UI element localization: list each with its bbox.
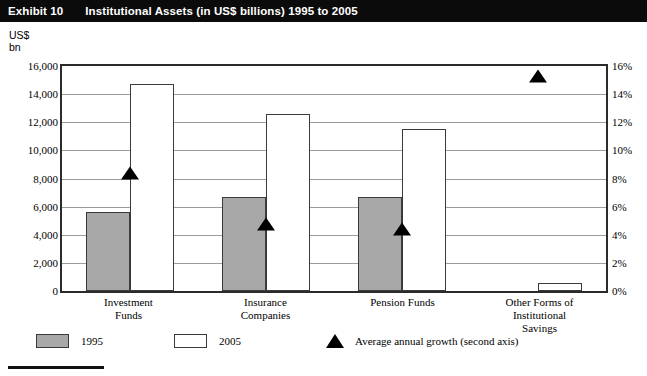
bar-group xyxy=(62,66,198,291)
right-axis-tick-label: 10% xyxy=(612,144,646,156)
white-square-swatch-icon xyxy=(174,334,207,348)
left-axis-tick-label: 6,000 xyxy=(8,201,58,213)
left-axis-tick-label: 16,000 xyxy=(8,60,58,72)
bar-1995[interactable] xyxy=(86,212,130,291)
left-axis-tick-label: 12,000 xyxy=(8,116,58,128)
right-axis-tick-label: 8% xyxy=(612,173,646,185)
plot-area xyxy=(60,64,608,293)
category-label-line: Insurance xyxy=(197,296,334,309)
bar-2005[interactable] xyxy=(402,129,446,291)
chart-legend: 1995 2005 Average annual growth (second … xyxy=(36,334,626,348)
left-axis-tick-label: 4,000 xyxy=(8,229,58,241)
right-axis-tick-label: 16% xyxy=(612,60,646,72)
category-axis-labels: InvestmentFundsInsuranceCompaniesPension… xyxy=(60,296,608,335)
black-triangle-marker-icon xyxy=(326,334,344,348)
category-label-line: Funds xyxy=(60,309,197,322)
left-axis-tick-label: 8,000 xyxy=(8,173,58,185)
legend-item-2005: 2005 xyxy=(174,334,324,348)
legend-label-1995: 1995 xyxy=(81,335,103,347)
footer-divider xyxy=(8,366,104,369)
right-axis-tick-label: 4% xyxy=(612,229,646,241)
bar-1995[interactable] xyxy=(358,197,402,291)
legend-label-growth: Average annual growth (second axis) xyxy=(355,335,519,347)
bar-group xyxy=(334,66,470,291)
bar-group xyxy=(470,66,606,291)
legend-item-growth: Average annual growth (second axis) xyxy=(324,334,519,348)
right-axis-tick-label: 12% xyxy=(612,116,646,128)
left-axis-tick-label: 2,000 xyxy=(8,257,58,269)
right-axis-tick-label: 0% xyxy=(612,285,646,297)
gridline xyxy=(62,291,606,292)
bar-2005[interactable] xyxy=(130,84,174,291)
category-label-line: Institutional xyxy=(471,309,608,322)
category-label: Other Forms ofInstitutionalSavings xyxy=(471,296,608,335)
exhibit-title: Institutional Assets (in US$ billions) 1… xyxy=(63,5,357,17)
left-axis-caption-currency: US$ xyxy=(9,30,29,41)
right-axis-tick-label: 14% xyxy=(612,88,646,100)
bar-2005[interactable] xyxy=(266,114,310,291)
category-label-line: Pension Funds xyxy=(334,296,471,309)
growth-marker[interactable] xyxy=(529,69,547,82)
category-label-line: Investment xyxy=(60,296,197,309)
bar-group xyxy=(198,66,334,291)
growth-marker[interactable] xyxy=(257,217,275,230)
exhibit-title-bar: Exhibit 10 Institutional Assets (in US$ … xyxy=(0,0,647,22)
left-axis-tick-label: 10,000 xyxy=(8,144,58,156)
right-axis-tick-label: 2% xyxy=(612,257,646,269)
category-label-line: Other Forms of xyxy=(471,296,608,309)
category-label: InsuranceCompanies xyxy=(197,296,334,335)
exhibit-number: Exhibit 10 xyxy=(0,5,63,17)
exhibit-chart-page: Exhibit 10 Institutional Assets (in US$ … xyxy=(0,0,647,376)
legend-item-1995: 1995 xyxy=(36,334,174,348)
left-axis-tick-label: 14,000 xyxy=(8,88,58,100)
legend-label-2005: 2005 xyxy=(219,335,241,347)
left-axis-caption-unit: bn xyxy=(9,42,21,53)
gray-square-swatch-icon xyxy=(36,334,69,348)
bar-1995[interactable] xyxy=(222,197,266,291)
growth-marker[interactable] xyxy=(393,223,411,236)
left-axis-tick-label: 0 xyxy=(8,285,58,297)
bar-2005[interactable] xyxy=(538,283,582,291)
category-label: InvestmentFunds xyxy=(60,296,197,335)
growth-marker[interactable] xyxy=(121,166,139,179)
bar-groups xyxy=(62,66,606,291)
category-label: Pension Funds xyxy=(334,296,471,335)
right-axis-tick-label: 6% xyxy=(612,201,646,213)
category-label-line: Companies xyxy=(197,309,334,322)
